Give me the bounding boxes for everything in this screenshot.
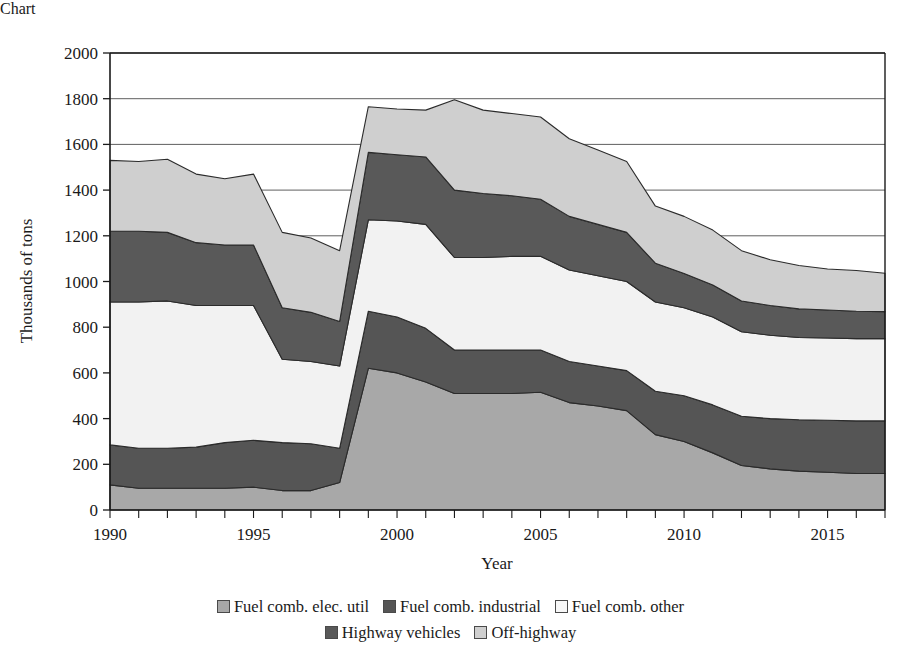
x-tick-label-1995: 1995: [237, 525, 271, 544]
y-tick-label-2000: 2000: [64, 44, 98, 63]
y-tick-label-200: 200: [73, 455, 99, 474]
chart-legend: Fuel comb. elec. utilFuel comb. industri…: [0, 594, 901, 646]
y-tick-label-1400: 1400: [64, 181, 98, 200]
legend-swatch-icon: [474, 626, 487, 639]
legend-item-row1-0[interactable]: Fuel comb. elec. util: [217, 594, 369, 620]
y-tick-label-0: 0: [90, 501, 99, 520]
legend-row-2: Highway vehiclesOff-highway: [0, 620, 901, 646]
legend-label: Off-highway: [491, 623, 576, 642]
x-tick-label-1990: 1990: [93, 525, 127, 544]
x-tick-label-2015: 2015: [811, 525, 845, 544]
legend-label: Fuel comb. industrial: [400, 597, 541, 616]
legend-row-1: Fuel comb. elec. utilFuel comb. industri…: [0, 594, 901, 620]
legend-item-row2-0[interactable]: Highway vehicles: [325, 620, 461, 646]
stacked-area-chart: 0200400600800100012001400160018002000 19…: [0, 18, 901, 650]
y-tick-label-400: 400: [73, 410, 99, 429]
chart-page: 0200400600800100012001400160018002000 19…: [0, 18, 901, 650]
y-tick-label-1800: 1800: [64, 90, 98, 109]
y-tick-label-1200: 1200: [64, 227, 98, 246]
x-tick-label-2000: 2000: [380, 525, 414, 544]
y-tick-label-800: 800: [73, 318, 99, 337]
legend-swatch-icon: [555, 600, 568, 613]
legend-swatch-icon: [325, 626, 338, 639]
legend-label: Highway vehicles: [342, 623, 461, 642]
legend-item-row1-2[interactable]: Fuel comb. other: [555, 594, 684, 620]
legend-label: Fuel comb. elec. util: [234, 597, 369, 616]
legend-swatch-icon: [217, 600, 230, 613]
legend-item-row2-1[interactable]: Off-highway: [474, 620, 576, 646]
legend-item-row1-1[interactable]: Fuel comb. industrial: [383, 594, 541, 620]
legend-label: Fuel comb. other: [572, 597, 684, 616]
y-axis-title: Thousands of tons: [17, 219, 36, 344]
y-axis-ticks: 0200400600800100012001400160018002000: [64, 44, 110, 520]
legend-swatch-icon: [383, 600, 396, 613]
x-tick-label-2005: 2005: [524, 525, 558, 544]
x-tick-label-2010: 2010: [667, 525, 701, 544]
y-tick-label-1600: 1600: [64, 135, 98, 154]
x-axis-ticks: 199019952000200520102015: [93, 510, 885, 544]
y-tick-label-1000: 1000: [64, 273, 98, 292]
y-tick-label-600: 600: [73, 364, 99, 383]
x-axis-title: Year: [481, 554, 513, 573]
